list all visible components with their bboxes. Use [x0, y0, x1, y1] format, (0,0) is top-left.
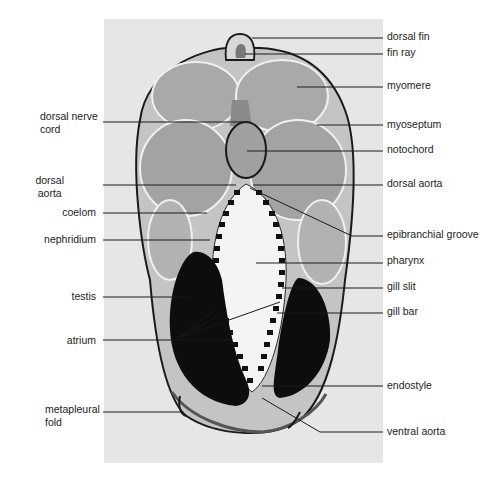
label-dorsal-fin: dorsal fin: [387, 30, 430, 43]
label-dorsal-aorta-right: dorsal aorta: [387, 177, 442, 190]
label-dorsal-aorta-left: dorsal aorta: [35, 174, 64, 200]
label-atrium: atrium: [67, 334, 96, 347]
label-testis: testis: [71, 290, 96, 303]
label-gill-bar: gill bar: [387, 305, 418, 318]
label-coelom: coelom: [62, 206, 96, 219]
label-metapleural-fold: metapleural fold: [45, 403, 100, 429]
myomere-left-mid: [140, 120, 232, 216]
myomere-right-low: [298, 200, 346, 284]
myomere-left-upper: [152, 62, 240, 130]
label-epibranchial-groove: epibranchial groove: [387, 228, 479, 241]
label-endostyle: endostyle: [387, 379, 432, 392]
label-fin-ray: fin ray: [387, 46, 416, 59]
amphioxus-cross-section-figure: dorsal nerve cord dorsal aorta coelom ne…: [0, 0, 502, 494]
label-ventral-aorta: ventral aorta: [387, 425, 445, 438]
label-notochord: notochord: [387, 143, 434, 156]
label-gill-slit: gill slit: [387, 280, 416, 293]
label-pharynx: pharynx: [387, 254, 424, 267]
label-nephridium: nephridium: [44, 233, 96, 246]
label-myoseptum: myoseptum: [387, 118, 441, 131]
notochord-shape: [226, 122, 266, 178]
label-myomere: myomere: [387, 79, 431, 92]
label-dorsal-nerve-cord: dorsal nerve cord: [40, 110, 98, 136]
